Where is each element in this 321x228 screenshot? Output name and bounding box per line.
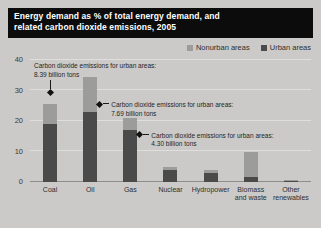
urban-swatch-icon	[261, 45, 267, 51]
legend-item-nonurban: Nonurban areas	[187, 43, 250, 52]
bar-column-5	[191, 60, 231, 182]
chart-area: 010203040 Carbon dioxide emissions for u…	[8, 54, 313, 210]
y-tick-label-10: 10	[15, 148, 23, 156]
bar-column-4	[150, 60, 190, 182]
legend: Nonurban areas Urban areas	[8, 43, 311, 53]
x-label-1: Coal	[30, 186, 70, 203]
bar-urban-segment	[244, 177, 258, 182]
x-label-2: Oil	[70, 186, 110, 203]
x-label-5: Hydropower	[191, 186, 231, 203]
chart-figure: Energy demand as % of total energy deman…	[0, 0, 321, 228]
chart-title-line1: Energy demand as % of total energy deman…	[14, 11, 307, 22]
nonurban-swatch-icon	[187, 45, 193, 51]
plot-area: Carbon dioxide emissions for urban areas…	[30, 60, 311, 182]
y-tick-label-40: 40	[15, 56, 23, 64]
x-labels-row: CoalOilGasNuclearHydropowerBiomass and w…	[30, 186, 311, 203]
chart-title: Energy demand as % of total energy deman…	[8, 8, 313, 38]
legend-item-urban: Urban areas	[261, 43, 311, 52]
bar-urban-segment	[43, 124, 57, 182]
bar-nonurban-segment	[83, 77, 97, 112]
x-label-6: Biomass and waste	[231, 186, 271, 203]
chart-title-line2: related carbon dioxide emissions, 2005	[14, 22, 307, 33]
bar-column-3	[110, 60, 150, 182]
bar-nonurban-segment	[244, 152, 258, 177]
legend-label-nonurban: Nonurban areas	[196, 43, 250, 52]
x-label-7: Other renewables	[271, 186, 311, 203]
bar-urban-segment	[204, 173, 218, 182]
y-axis: 010203040	[8, 60, 26, 182]
bar-urban-segment	[123, 130, 137, 182]
legend-label-urban: Urban areas	[270, 43, 311, 52]
bar-urban-segment	[284, 181, 298, 182]
bar-column-1	[30, 60, 70, 182]
bar-urban-segment	[83, 112, 97, 182]
bars-row	[30, 60, 311, 182]
y-tick-label-0: 0	[19, 178, 23, 186]
y-tick-label-20: 20	[15, 117, 23, 125]
x-label-3: Gas	[110, 186, 150, 203]
y-tick-label-30: 30	[15, 87, 23, 95]
bar-column-6	[231, 60, 271, 182]
bar-urban-segment	[163, 170, 177, 182]
bar-nonurban-segment	[43, 104, 57, 124]
bar-column-2	[70, 60, 110, 182]
bar-nonurban-segment	[123, 118, 137, 130]
x-label-4: Nuclear	[150, 186, 190, 203]
bar-column-7	[271, 60, 311, 182]
